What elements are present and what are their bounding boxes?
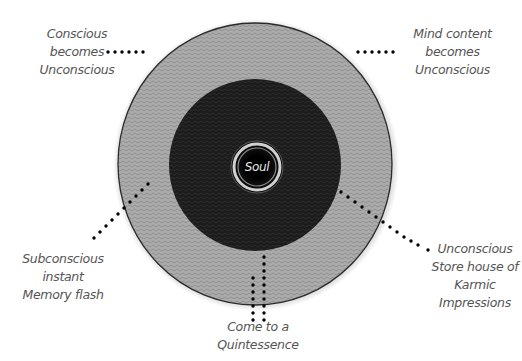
label-line: Store house of bbox=[420, 258, 522, 276]
label-line: Quintessence bbox=[198, 336, 318, 354]
label-subconscious-memory-flash: Subconscious instant Memory flash bbox=[8, 250, 118, 304]
label-line: Subconscious bbox=[8, 250, 118, 268]
label-quintessence: Come to a Quintessence bbox=[198, 318, 318, 354]
label-line: Unconscious bbox=[420, 240, 522, 258]
label-mind-content-becomes-unconscious: Mind content becomes Unconscious bbox=[395, 25, 510, 79]
label-line: becomes bbox=[395, 43, 510, 61]
label-line: Come to a bbox=[198, 318, 318, 336]
label-line: Karmic bbox=[420, 276, 522, 294]
label-line: Unconscious bbox=[395, 61, 510, 79]
label-line: Conscious bbox=[22, 25, 132, 43]
label-line: Unconscious bbox=[22, 61, 132, 79]
label-line: Mind content bbox=[395, 25, 510, 43]
label-line: Memory flash bbox=[8, 286, 118, 304]
soul-label: Soul bbox=[232, 158, 282, 176]
label-conscious-becomes-unconscious: Conscious becomes Unconscious bbox=[22, 25, 132, 79]
soul-label-text: Soul bbox=[232, 158, 282, 176]
label-line: becomes bbox=[22, 43, 132, 61]
label-line: instant bbox=[8, 268, 118, 286]
label-line: Impressions bbox=[420, 294, 522, 312]
connector-top-right bbox=[356, 50, 394, 53]
label-unconscious-karmic-impressions: Unconscious Store house of Karmic Impres… bbox=[420, 240, 522, 312]
